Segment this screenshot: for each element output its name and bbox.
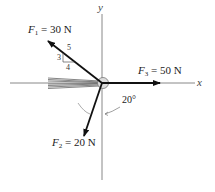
- force-arrow-f1: [48, 41, 102, 83]
- y-axis-label: y: [98, 2, 103, 13]
- slope-run: 4: [66, 64, 70, 72]
- f2-label: F2 = 20 N: [52, 137, 96, 150]
- f1-label: F1 = 30 N: [28, 24, 72, 37]
- f3-label: F3 = 50 N: [138, 65, 182, 78]
- x-axis-label: x: [197, 77, 202, 88]
- angle-arc-f2: [78, 103, 90, 114]
- slope-rise: 3: [57, 54, 61, 62]
- force-arrow-f2: [84, 83, 102, 136]
- slope-hyp: 5: [67, 44, 71, 52]
- angle-label-20: 20°: [122, 95, 136, 105]
- angle-arc-20deg: [105, 107, 120, 114]
